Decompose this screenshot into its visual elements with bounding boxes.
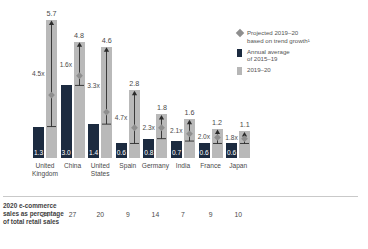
bar-group: 2.80.64.7x	[116, 8, 140, 158]
bar-group: 4.83.01.6x	[61, 8, 85, 158]
country-label-line2: Kingdom	[32, 170, 58, 177]
country-label-line2: States	[91, 170, 110, 177]
growth-multiplier-label: 4.7x	[115, 114, 127, 121]
projected-diamond-marker	[48, 92, 55, 99]
growth-arrow	[143, 8, 167, 158]
projected-diamond-marker	[131, 124, 138, 131]
country-label-line1: China	[64, 162, 81, 169]
growth-multiplier-label: 1.6x	[60, 61, 72, 68]
plot-area: 5.71.34.5x4.83.01.6x4.61.43.3x2.80.64.7x…	[28, 8, 340, 158]
country-label-line1: India	[176, 162, 190, 169]
bar-group: 1.80.82.3x	[143, 8, 167, 158]
growth-arrow	[171, 8, 195, 158]
country-axis-label: Japan	[220, 162, 256, 170]
country-label-line1: France	[200, 162, 221, 169]
projected-diamond-marker	[103, 109, 110, 116]
growth-arrow	[116, 8, 140, 158]
growth-arrow	[33, 8, 57, 158]
bar-group: 5.71.34.5x	[33, 8, 57, 158]
footer-value: 10	[220, 211, 256, 218]
projected-diamond-marker	[158, 124, 165, 131]
growth-multiplier-label: 2.1x	[170, 127, 182, 134]
projected-diamond-marker	[214, 134, 221, 141]
growth-multiplier-label: 4.5x	[32, 70, 44, 77]
footer-divider	[3, 196, 358, 197]
growth-multiplier-label: 2.0x	[198, 133, 210, 140]
bar-group: 1.60.72.1x	[171, 8, 195, 158]
country-label-line1: Japan	[229, 162, 247, 169]
country-label-line1: Spain	[119, 162, 136, 169]
growth-multiplier-label: 2.3x	[142, 124, 154, 131]
bar-group: 4.61.43.3x	[88, 8, 112, 158]
growth-multiplier-label: 1.8x	[225, 134, 237, 141]
growth-arrow	[61, 8, 85, 158]
bar-group: 1.10.61.8x	[226, 8, 250, 158]
country-label-line1: United	[35, 162, 54, 169]
country-label-line1: United	[91, 162, 110, 169]
projected-diamond-marker	[76, 72, 83, 79]
projected-diamond-marker	[186, 130, 193, 137]
bar-group: 1.20.62.0x	[199, 8, 223, 158]
growth-multiplier-label: 3.3x	[87, 82, 99, 89]
ecommerce-growth-chart: Projected 2019–20 based on trend growth¹…	[0, 0, 368, 249]
